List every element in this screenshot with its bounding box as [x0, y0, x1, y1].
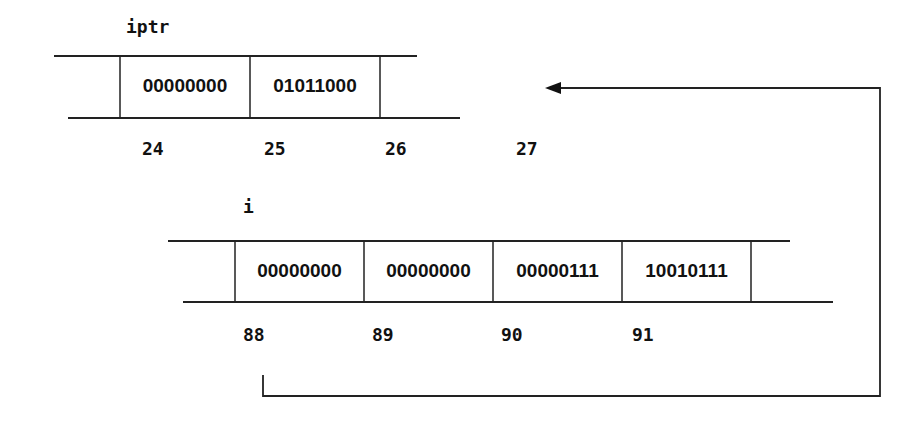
- i-cell-89: 00000000: [364, 260, 493, 282]
- address-24: 24: [142, 138, 164, 159]
- address-27: 27: [516, 138, 538, 159]
- iptr-label: iptr: [126, 16, 169, 37]
- i-label: i: [243, 196, 254, 217]
- iptr-cell-24: 00000000: [120, 75, 250, 97]
- i-cell-90: 00000111: [493, 260, 622, 282]
- address-88: 88: [243, 324, 265, 345]
- address-25: 25: [264, 138, 286, 159]
- address-89: 89: [372, 324, 394, 345]
- i-cell-91: 10010111: [622, 260, 751, 282]
- address-26: 26: [385, 138, 407, 159]
- iptr-cell-25: 01011000: [250, 75, 380, 97]
- i-cell-88: 00000000: [235, 260, 364, 282]
- address-91: 91: [632, 324, 654, 345]
- address-90: 90: [501, 324, 523, 345]
- diagram-lines: [0, 0, 924, 422]
- memory-diagram: iptr 00000000 01011000 24 25 26 27 i 000…: [0, 0, 924, 422]
